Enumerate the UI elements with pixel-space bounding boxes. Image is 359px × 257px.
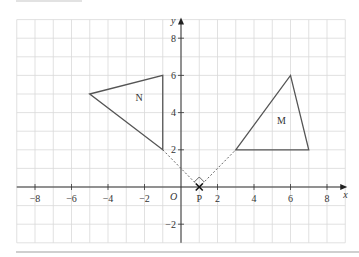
y-tick-label: 6	[171, 70, 176, 81]
point-label: P	[196, 193, 202, 204]
x-tick-label: −6	[66, 193, 77, 204]
origin-label: O	[170, 191, 177, 202]
y-tick-label: 8	[171, 33, 176, 44]
x-tick-label: −8	[30, 193, 41, 204]
x-tick-label: −2	[139, 193, 150, 204]
x-tick-label: 8	[325, 193, 330, 204]
y-tick-label: 2	[171, 144, 176, 155]
x-tick-label: 6	[288, 193, 293, 204]
triangle-label-n: N	[135, 92, 142, 103]
y-tick-label: −2	[165, 219, 176, 230]
coordinate-diagram: xyO −8−6−4−224688642−2 NM P	[0, 0, 359, 257]
x-axis-label: x	[342, 189, 348, 200]
x-tick-label: 2	[215, 193, 220, 204]
y-tick-label: 4	[171, 107, 176, 118]
x-tick-label: −4	[103, 193, 114, 204]
x-tick-label: 4	[252, 193, 257, 204]
axes: xyO	[17, 15, 349, 243]
triangle-label-m: M	[277, 115, 286, 126]
y-axis-label: y	[170, 15, 176, 26]
bottom-divider	[16, 251, 359, 253]
y-axis-arrow-icon	[178, 18, 184, 25]
